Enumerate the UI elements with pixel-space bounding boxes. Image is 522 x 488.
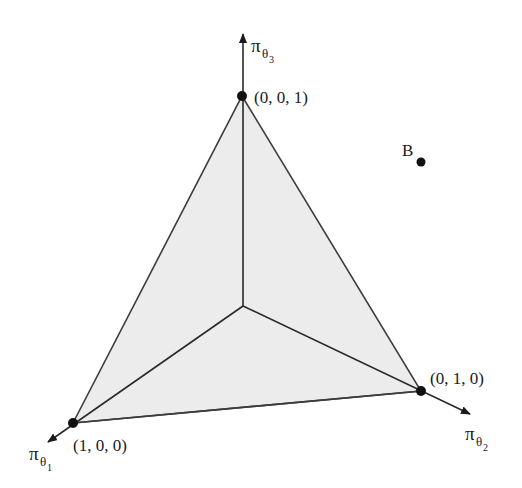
svg-text:π: π — [29, 443, 39, 464]
vertex-point-001 — [237, 91, 247, 101]
simplex-face — [73, 96, 421, 423]
svg-text:1: 1 — [47, 462, 52, 473]
simplex-diagram: B (0, 0, 1) (0, 1, 0) (1, 0, 0) π θ 3 π … — [0, 0, 522, 488]
svg-text:2: 2 — [483, 442, 488, 453]
vertex-label-100: (1, 0, 0) — [73, 436, 127, 455]
svg-text:θ: θ — [476, 434, 482, 449]
point-b — [417, 158, 426, 167]
svg-text:π: π — [465, 423, 475, 444]
axis-label-theta1: π θ 1 — [29, 443, 52, 473]
vertex-point-100 — [68, 418, 78, 428]
vertex-point-010 — [416, 386, 426, 396]
svg-text:3: 3 — [269, 54, 274, 65]
svg-text:π: π — [251, 35, 261, 56]
axis-label-theta3: π θ 3 — [251, 35, 274, 65]
vertex-label-001: (0, 0, 1) — [254, 88, 308, 107]
axis-label-theta2: π θ 2 — [465, 423, 488, 453]
point-b-label: B — [402, 141, 413, 160]
svg-text:θ: θ — [40, 454, 46, 469]
vertex-label-010: (0, 1, 0) — [430, 369, 484, 388]
svg-text:θ: θ — [262, 46, 268, 61]
